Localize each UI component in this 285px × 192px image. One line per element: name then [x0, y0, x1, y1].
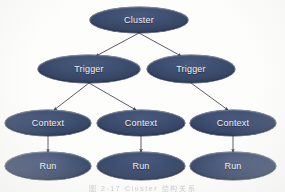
node-context-1[interactable]: Context	[5, 110, 91, 136]
node-label-trigger-left: Trigger	[74, 65, 104, 74]
node-label-trigger-right: Trigger	[176, 65, 206, 74]
diagram-canvas: ClusterTriggerTriggerContextContextConte…	[0, 0, 285, 192]
node-label-run-3: Run	[224, 162, 241, 171]
node-trigger-left[interactable]: Trigger	[38, 55, 140, 83]
edge-trigger-left-context-2	[89, 83, 136, 110]
node-label-run-2: Run	[132, 162, 149, 171]
edge-cluster-trigger-right	[139, 33, 181, 56]
node-label-run-1: Run	[39, 162, 56, 171]
node-context-2[interactable]: Context	[97, 110, 185, 136]
node-label-context-1: Context	[32, 119, 64, 128]
edge-trigger-left-context-1	[54, 83, 89, 110]
node-run-2[interactable]: Run	[97, 152, 185, 180]
node-cluster[interactable]: Cluster	[90, 7, 188, 33]
node-trigger-right[interactable]: Trigger	[147, 55, 235, 83]
edge-trigger-right-context-3	[191, 83, 228, 110]
node-run-3[interactable]: Run	[190, 152, 276, 180]
node-label-context-2: Context	[125, 119, 157, 128]
node-context-3[interactable]: Context	[190, 110, 276, 136]
edge-cluster-trigger-left	[96, 33, 139, 56]
node-label-cluster: Cluster	[124, 16, 154, 25]
figure-caption: 图 2-17 Cluster 结构关系	[0, 183, 285, 192]
node-label-context-3: Context	[217, 119, 249, 128]
node-run-1[interactable]: Run	[5, 152, 91, 180]
